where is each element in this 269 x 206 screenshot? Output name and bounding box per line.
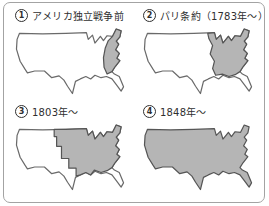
- territory-shaded-region: [208, 29, 249, 76]
- panel-1848: 4 1848年～: [139, 104, 257, 198]
- figure-frame: 1 アメリカ独立戦争前 2 パリ条約（1783年～）: [3, 2, 265, 203]
- us-map-1848: [139, 119, 257, 198]
- us-map-treaty-of-paris: [139, 23, 257, 102]
- panel-label: パリ条約（1783年～）: [160, 8, 268, 23]
- panel-header: 3 1803年～: [11, 104, 129, 119]
- circled-number-2: 2: [143, 9, 156, 22]
- panel-before-independence: 1 アメリカ独立戦争前: [11, 8, 129, 102]
- textbook-figure: 1 アメリカ独立戦争前 2 パリ条約（1783年～）: [0, 0, 269, 206]
- panel-header: 4 1848年～: [139, 104, 257, 119]
- panel-label: 1848年～: [160, 104, 207, 119]
- circled-number-4: 4: [143, 105, 156, 118]
- territory-shaded-region: [144, 125, 251, 189]
- circled-number-3: 3: [15, 105, 28, 118]
- circled-number-1: 1: [15, 9, 28, 22]
- us-map-before-independence: [11, 23, 129, 102]
- us-map-1803: [11, 119, 129, 198]
- panel-1803: 3 1803年～: [11, 104, 129, 198]
- map-grid: 1 アメリカ独立戦争前 2 パリ条約（1783年～）: [11, 8, 257, 198]
- panel-label: 1803年～: [32, 104, 79, 119]
- territory-shaded-region: [103, 29, 121, 74]
- panel-header: 1 アメリカ独立戦争前: [11, 8, 129, 23]
- panel-label: アメリカ独立戦争前: [32, 8, 124, 23]
- panel-treaty-of-paris: 2 パリ条約（1783年～）: [139, 8, 257, 102]
- panel-header: 2 パリ条約（1783年～）: [139, 8, 257, 23]
